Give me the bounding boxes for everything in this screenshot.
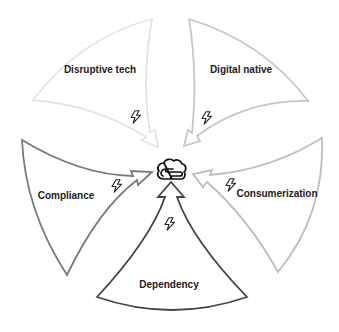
digital-native-shape [184, 19, 308, 146]
segment-digital-native[interactable] [184, 19, 308, 146]
cloud-icon [158, 159, 186, 179]
label-consumerization: Consumerization [236, 188, 317, 199]
segment-disruptive-tech[interactable] [33, 19, 158, 147]
dependency-shape [97, 182, 247, 310]
label-compliance: Compliance [38, 190, 95, 201]
segment-dependency[interactable] [97, 182, 247, 310]
label-disruptive-tech: Disruptive tech [64, 64, 136, 75]
disruptive-tech-shape [33, 19, 158, 147]
consumerization-shape [193, 138, 322, 272]
label-dependency: Dependency [139, 279, 198, 290]
label-digital-native: Digital native [210, 64, 272, 75]
segment-consumerization[interactable] [193, 138, 322, 272]
